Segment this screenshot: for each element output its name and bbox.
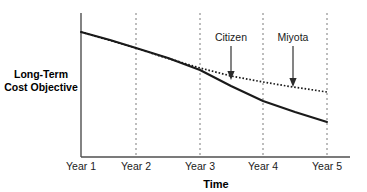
x-tick-label-year-1: Year 1	[66, 160, 96, 172]
chart-container: Citizen Miyota Year 1 Year 2 Year 3 Year…	[0, 0, 367, 192]
y-axis-title: Long-Term Cost Objective	[4, 68, 78, 93]
x-tick-label-year-3: Year 3	[185, 160, 215, 172]
annotation-arrow-miyota	[289, 46, 296, 87]
annotation-arrow-citizen	[227, 46, 234, 80]
y-axis-title-line-1: Long-Term	[14, 68, 68, 80]
y-axis-title-line-2: Cost Objective	[4, 81, 78, 93]
x-tick-label-year-5: Year 5	[312, 160, 342, 172]
citizen-arrow-head	[227, 71, 234, 80]
miyota-arrow-head	[289, 78, 296, 87]
annotation-label-citizen: Citizen	[215, 31, 247, 43]
x-tick-label-year-2: Year 2	[121, 160, 151, 172]
x-tick-label-year-4: Year 4	[248, 160, 278, 172]
annotation-label-miyota: Miyota	[278, 31, 309, 43]
x-axis-title: Time	[203, 178, 228, 190]
line-chart: Citizen Miyota Year 1 Year 2 Year 3 Year…	[0, 0, 367, 192]
series-line-miyota	[81, 32, 327, 122]
